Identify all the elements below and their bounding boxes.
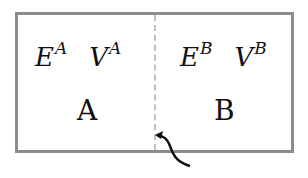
pointer-arrow-icon [0, 0, 308, 178]
